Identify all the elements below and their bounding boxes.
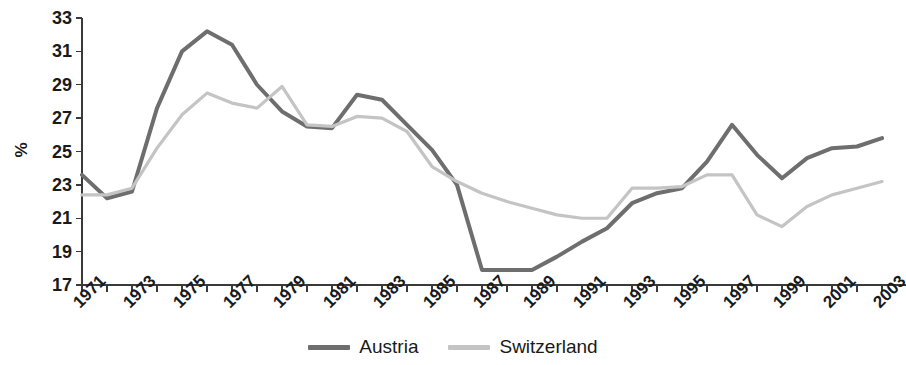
series-line-austria xyxy=(82,31,882,270)
y-tick-label: 29 xyxy=(38,76,72,94)
line-chart: % 171921232527293133 1971197319751977197… xyxy=(0,0,906,365)
y-tick-label: 23 xyxy=(38,176,72,194)
legend-entry-austria[interactable]: Austria xyxy=(308,336,418,358)
legend-label: Austria xyxy=(359,336,418,358)
plot-area xyxy=(0,0,906,365)
y-tick-label: 21 xyxy=(38,209,72,227)
y-axis-ticks xyxy=(76,18,82,285)
legend-entry-switzerland[interactable]: Switzerland xyxy=(448,336,597,358)
y-tick-label: 31 xyxy=(38,42,72,60)
series-line-switzerland xyxy=(82,86,882,226)
legend-label: Switzerland xyxy=(499,336,597,358)
y-tick-label: 27 xyxy=(38,109,72,127)
y-tick-label: 17 xyxy=(38,276,72,294)
y-tick-label: 25 xyxy=(38,143,72,161)
series-lines xyxy=(82,31,882,270)
legend-swatch-austria xyxy=(308,345,350,350)
legend-swatch-switzerland xyxy=(448,345,490,350)
axis-lines xyxy=(82,18,906,285)
chart-legend: AustriaSwitzerland xyxy=(0,336,906,358)
y-tick-label: 19 xyxy=(38,243,72,261)
y-tick-label: 33 xyxy=(38,9,72,27)
